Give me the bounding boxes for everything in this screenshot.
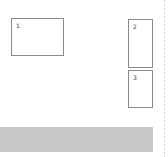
panel-3-label: 3 (133, 75, 137, 81)
grey-bar (0, 127, 153, 152)
dotted-divider (164, 0, 165, 157)
panel-1-label: 1 (16, 23, 20, 29)
panel-2: 2 (128, 19, 153, 68)
panel-2-label: 2 (133, 24, 137, 30)
panel-3: 3 (128, 70, 153, 108)
panel-1: 1 (11, 18, 64, 56)
